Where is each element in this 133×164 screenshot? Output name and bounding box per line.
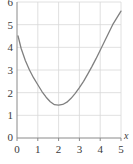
x-axis-label: x — [124, 131, 128, 141]
y-tick-label-2: 2 — [1, 88, 13, 99]
chart-figure: 6 5 4 3 2 1 0 0 1 2 3 4 5 x — [0, 0, 133, 164]
y-tick-label-5: 5 — [1, 20, 13, 31]
y-tick-label-4: 4 — [1, 42, 13, 53]
y-tick-label-3: 3 — [1, 65, 13, 76]
plot-canvas — [0, 0, 133, 164]
x-tick-label-3: 3 — [73, 144, 85, 155]
y-tick-label-0: 0 — [1, 132, 13, 143]
y-tick-label-6: 6 — [1, 0, 13, 8]
x-tick-label-1: 1 — [32, 144, 44, 155]
x-tick-label-2: 2 — [53, 144, 65, 155]
y-tick-label-1: 1 — [1, 110, 13, 121]
x-tick-label-0: 0 — [11, 144, 23, 155]
x-tick-label-4: 4 — [94, 144, 106, 155]
x-tick-label-5: 5 — [115, 144, 127, 155]
